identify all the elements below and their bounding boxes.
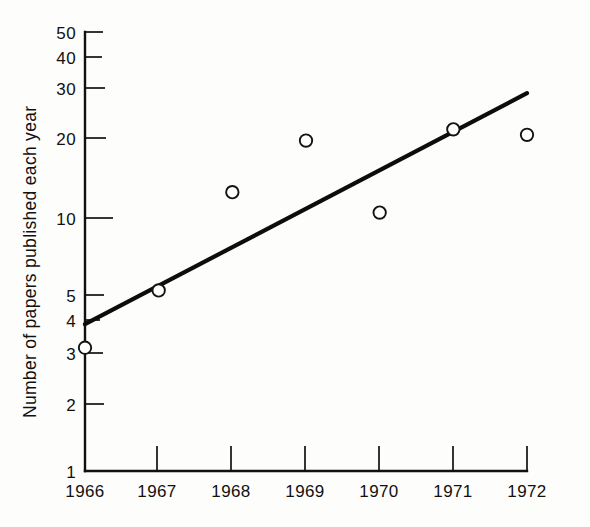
- data-point-1966: [79, 342, 91, 354]
- data-point-1969: [300, 134, 312, 146]
- chart-figure: Number of papers published each year 50 …: [0, 0, 590, 527]
- y-tick-label-50: 50: [56, 24, 76, 43]
- trend-line: [85, 93, 527, 324]
- y-axis-label: Number of papers published each year: [20, 106, 40, 418]
- y-tick-label-5: 5: [66, 287, 76, 306]
- x-tick-label-1968: 1968: [211, 482, 250, 501]
- data-point-1970: [373, 206, 385, 218]
- data-point-1971: [447, 123, 459, 135]
- data-point-1968: [226, 186, 238, 198]
- x-tick-label-1972: 1972: [507, 482, 546, 501]
- y-tick-label-3: 3: [66, 345, 76, 364]
- x-tick-label-1966: 1966: [65, 482, 104, 501]
- y-tick-label-2: 2: [66, 396, 76, 415]
- x-tick-label-1969: 1969: [285, 482, 324, 501]
- y-tick-label-1: 1: [66, 463, 76, 482]
- y-tick-label-30: 30: [56, 80, 76, 99]
- x-tick-label-1970: 1970: [359, 482, 398, 501]
- data-point-1967: [152, 284, 164, 296]
- scatter-plot-canvas: Number of papers published each year 50 …: [0, 0, 590, 527]
- x-tick-label-1971: 1971: [433, 482, 472, 501]
- y-axis-ticks: [85, 32, 113, 471]
- y-tick-label-40: 40: [56, 49, 76, 68]
- x-axis-ticks: [85, 443, 527, 471]
- y-axis-tick-labels: 50 40 30 20 10 5 4 3 2 1: [56, 24, 76, 482]
- x-axis-tick-labels: 1966 1967 1968 1969 1970 1971 1972: [65, 482, 546, 501]
- data-point-1972: [521, 129, 533, 141]
- data-point-group: [79, 123, 533, 354]
- y-tick-label-20: 20: [56, 130, 76, 149]
- y-tick-label-4: 4: [66, 312, 76, 331]
- y-tick-label-10: 10: [56, 210, 76, 229]
- x-tick-label-1967: 1967: [137, 482, 176, 501]
